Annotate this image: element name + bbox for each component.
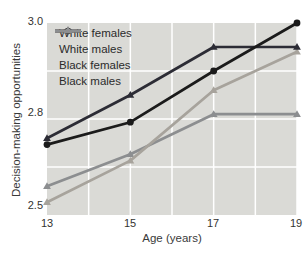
legend-item-white-males: White males: [54, 41, 132, 57]
legend-label: White males: [59, 43, 122, 55]
x-tick-label-13: 13: [35, 217, 59, 229]
y-tick-label-2.8: 2.8: [13, 107, 43, 118]
line-chart-figure: Decision-making opportunities 3.0 2.8 2.…: [0, 0, 308, 260]
x-tick-label-19: 19: [284, 217, 308, 229]
legend-label: Black females: [59, 59, 131, 71]
y-axis-title: Decision-making opportunities: [10, 30, 26, 210]
line-triangle-marker-icon: [54, 25, 82, 37]
legend: White females White males Black females …: [54, 25, 132, 89]
x-tick-label-15: 15: [118, 217, 142, 229]
y-tick-label-3.0: 3.0: [13, 16, 43, 27]
plot-area: White females White males Black females …: [47, 23, 297, 215]
y-tick-label-2.5: 2.5: [13, 200, 43, 211]
legend-item-black-males: Black males: [54, 73, 132, 89]
x-axis-title: Age (years): [47, 232, 297, 244]
legend-label: Black males: [59, 75, 121, 87]
legend-item-black-females: Black females: [54, 57, 132, 73]
x-tick-label-17: 17: [201, 217, 225, 229]
